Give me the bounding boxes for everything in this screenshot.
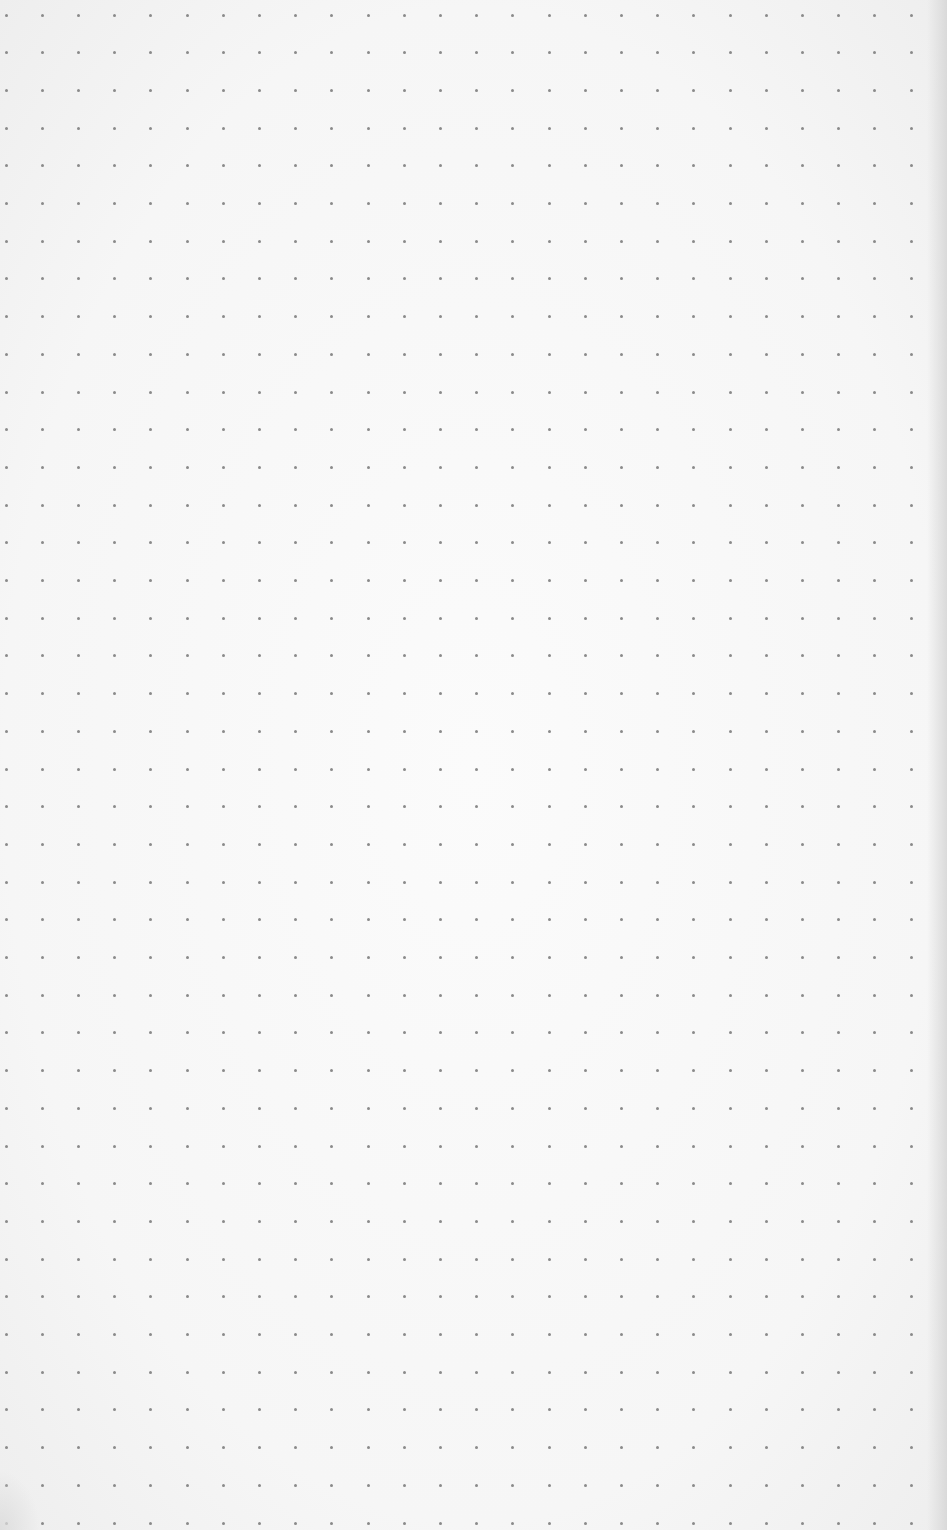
grid-dot: [656, 51, 659, 54]
grid-dot: [475, 127, 478, 130]
grid-dot: [656, 617, 659, 620]
grid-dot: [330, 956, 333, 959]
grid-dot: [5, 654, 8, 657]
grid-dot: [5, 1220, 8, 1223]
grid-dot: [910, 768, 913, 771]
grid-dot: [439, 14, 442, 17]
grid-dot: [113, 692, 116, 695]
grid-dot: [656, 1145, 659, 1148]
grid-dot: [294, 881, 297, 884]
grid-dot: [258, 504, 261, 507]
grid-dot: [801, 881, 804, 884]
grid-dot: [186, 843, 189, 846]
grid-dot: [149, 654, 152, 657]
grid-dot: [801, 14, 804, 17]
grid-dot: [873, 617, 876, 620]
grid-dot: [873, 1145, 876, 1148]
grid-dot: [77, 1145, 80, 1148]
grid-dot: [801, 1069, 804, 1072]
dot-grid-page: [0, 0, 947, 1530]
grid-dot: [801, 918, 804, 921]
grid-dot: [475, 1031, 478, 1034]
grid-dot: [258, 1220, 261, 1223]
grid-dot: [294, 1446, 297, 1449]
grid-dot: [330, 1333, 333, 1336]
grid-dot: [548, 1107, 551, 1110]
grid-dot: [439, 1522, 442, 1525]
grid-dot: [294, 1295, 297, 1298]
grid-dot: [656, 1258, 659, 1261]
grid-dot: [222, 730, 225, 733]
grid-dot: [511, 1069, 514, 1072]
grid-dot: [5, 730, 8, 733]
grid-dot: [656, 541, 659, 544]
grid-dot: [330, 994, 333, 997]
grid-dot: [41, 504, 44, 507]
grid-dot: [620, 1371, 623, 1374]
grid-dot: [330, 353, 333, 356]
grid-dot: [41, 1408, 44, 1411]
grid-dot: [77, 391, 80, 394]
grid-dot: [403, 881, 406, 884]
grid-dot: [403, 692, 406, 695]
grid-dot: [222, 1220, 225, 1223]
grid-dot: [548, 428, 551, 431]
grid-dot: [439, 1145, 442, 1148]
grid-dot: [620, 1145, 623, 1148]
grid-dot: [439, 1182, 442, 1185]
grid-dot: [439, 1446, 442, 1449]
grid-dot: [41, 617, 44, 620]
grid-dot: [294, 202, 297, 205]
grid-dot: [403, 579, 406, 582]
grid-dot: [584, 843, 587, 846]
grid-dot: [910, 1145, 913, 1148]
grid-dot: [910, 428, 913, 431]
grid-dot: [692, 1371, 695, 1374]
grid-dot: [511, 315, 514, 318]
grid-dot: [258, 654, 261, 657]
grid-dot: [77, 805, 80, 808]
grid-dot: [186, 541, 189, 544]
grid-dot: [873, 1446, 876, 1449]
grid-dot: [620, 654, 623, 657]
grid-dot: [837, 1371, 840, 1374]
grid-dot: [873, 1333, 876, 1336]
grid-dot: [475, 692, 478, 695]
grid-dot: [367, 1182, 370, 1185]
grid-dot: [258, 579, 261, 582]
grid-dot: [258, 956, 261, 959]
grid-dot: [113, 1408, 116, 1411]
grid-dot: [186, 1446, 189, 1449]
grid-dot: [258, 164, 261, 167]
grid-dot: [801, 768, 804, 771]
grid-dot: [584, 768, 587, 771]
grid-dot: [186, 353, 189, 356]
grid-dot: [729, 240, 732, 243]
grid-dot: [5, 994, 8, 997]
grid-dot: [5, 127, 8, 130]
grid-dot: [186, 617, 189, 620]
grid-dot: [837, 1446, 840, 1449]
grid-dot: [41, 1484, 44, 1487]
grid-dot: [113, 315, 116, 318]
grid-dot: [620, 1522, 623, 1525]
grid-dot: [475, 956, 478, 959]
grid-dot: [801, 994, 804, 997]
grid-dot: [765, 654, 768, 657]
grid-dot: [765, 768, 768, 771]
grid-dot: [765, 692, 768, 695]
grid-dot: [294, 391, 297, 394]
grid-dot: [149, 768, 152, 771]
grid-dot: [910, 127, 913, 130]
grid-dot: [367, 277, 370, 280]
grid-dot: [620, 617, 623, 620]
grid-dot: [222, 1295, 225, 1298]
grid-dot: [801, 1182, 804, 1185]
grid-dot: [837, 391, 840, 394]
grid-dot: [403, 994, 406, 997]
grid-dot: [258, 1145, 261, 1148]
grid-dot: [729, 504, 732, 507]
grid-dot: [186, 1408, 189, 1411]
grid-dot: [548, 1069, 551, 1072]
grid-dot: [692, 1145, 695, 1148]
